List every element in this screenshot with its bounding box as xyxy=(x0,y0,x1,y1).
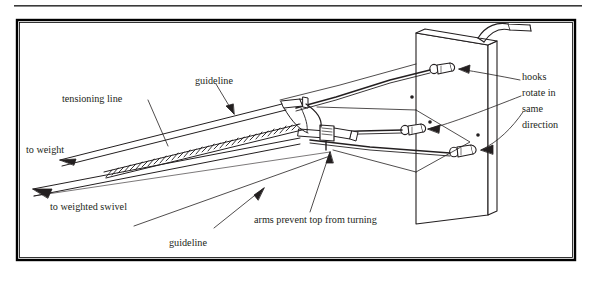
label-guideline-bottom: guideline xyxy=(169,237,207,248)
label-hooks-line-1: hooks xyxy=(522,71,546,82)
label-guideline-top: guideline xyxy=(195,75,233,86)
label-hooks-line-4: direction xyxy=(522,119,558,130)
vertical-panel xyxy=(416,29,497,224)
page-background xyxy=(0,0,596,281)
label-arms-prevent-top-from-turning: arms prevent top from turning xyxy=(254,214,377,225)
label-tensioning-line: tensioning line xyxy=(62,93,123,104)
label-hooks-line-2: rotate in xyxy=(522,87,556,98)
label-to-weighted-swivel: to weighted swivel xyxy=(50,201,127,212)
label-hooks-line-3: same xyxy=(522,103,543,114)
label-to-weight: to weight xyxy=(26,144,64,155)
figure-root: tensioning line guideline to weight to w… xyxy=(0,0,596,281)
top-rule xyxy=(14,5,582,7)
